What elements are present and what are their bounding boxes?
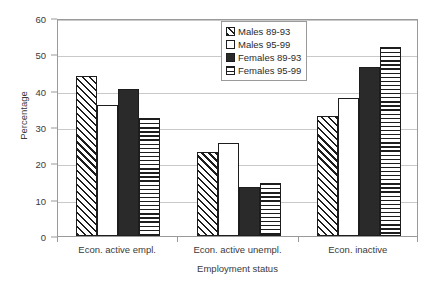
legend-item[interactable]: Males 89-93 bbox=[226, 25, 301, 38]
legend-item[interactable]: Females 89-93 bbox=[226, 51, 301, 64]
legend-label: Females 95-99 bbox=[238, 66, 301, 76]
legend-label: Females 89-93 bbox=[238, 53, 301, 63]
x-axis-title: Employment status bbox=[57, 263, 418, 274]
bar[interactable] bbox=[197, 152, 218, 236]
bar[interactable] bbox=[380, 47, 401, 236]
y-axis-tick-label: 30 bbox=[35, 123, 46, 134]
x-axis-tick-mark bbox=[57, 237, 58, 242]
bar-chart-figure: Percentage 0102030405060 Econ. active em… bbox=[0, 0, 432, 285]
x-axis-category-labels: Econ. active empl.Econ. active unempl.Ec… bbox=[57, 244, 418, 260]
x-axis-category-label: Econ. active unempl. bbox=[193, 244, 281, 255]
legend-item[interactable]: Females 95-99 bbox=[226, 64, 301, 77]
x-axis-category-label: Econ. inactive bbox=[328, 244, 387, 255]
legend-label: Males 89-93 bbox=[238, 27, 290, 37]
y-axis-tick-label: 0 bbox=[41, 232, 46, 243]
bar-group bbox=[76, 20, 160, 236]
x-axis-tick-mark bbox=[417, 237, 418, 242]
legend-item[interactable]: Males 95-99 bbox=[226, 38, 301, 51]
bar[interactable] bbox=[218, 143, 239, 236]
bar[interactable] bbox=[118, 89, 139, 236]
legend-swatch-icon bbox=[226, 40, 235, 49]
x-axis-tick-mark bbox=[177, 237, 178, 242]
y-axis-tick-label: 10 bbox=[35, 195, 46, 206]
bar[interactable] bbox=[97, 105, 118, 236]
y-axis-tick-label: 60 bbox=[35, 14, 46, 25]
bar[interactable] bbox=[76, 76, 97, 236]
chart-legend: Males 89-93Males 95-99Females 89-93Femal… bbox=[221, 21, 307, 81]
bar[interactable] bbox=[359, 67, 380, 236]
legend-swatch-icon bbox=[226, 53, 235, 62]
legend-swatch-icon bbox=[226, 27, 235, 36]
bar[interactable] bbox=[239, 187, 260, 236]
bar[interactable] bbox=[139, 118, 160, 236]
bar[interactable] bbox=[338, 98, 359, 236]
y-axis-tick-label: 50 bbox=[35, 50, 46, 61]
y-axis-tick-label: 40 bbox=[35, 86, 46, 97]
y-axis-tick-label: 20 bbox=[35, 159, 46, 170]
x-axis-tick-mark bbox=[298, 237, 299, 242]
x-axis-tick-marks bbox=[57, 237, 418, 243]
bar[interactable] bbox=[260, 183, 281, 236]
bar-group bbox=[317, 20, 401, 236]
x-axis-category-label: Econ. active empl. bbox=[78, 244, 156, 255]
y-axis-tick-labels: 0102030405060 bbox=[0, 19, 57, 237]
legend-swatch-icon bbox=[226, 66, 235, 75]
legend-label: Males 95-99 bbox=[238, 40, 290, 50]
bar[interactable] bbox=[317, 116, 338, 236]
